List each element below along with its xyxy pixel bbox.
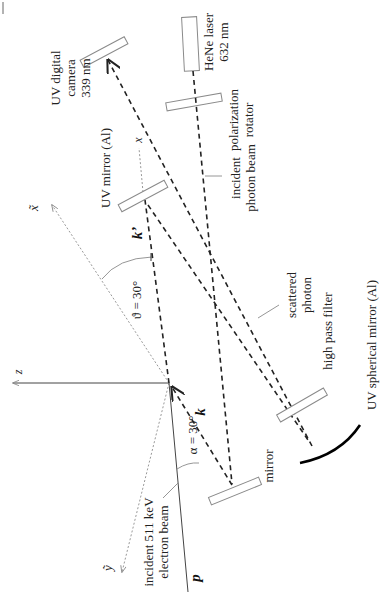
uv-camera-label-3: 339 nm: [78, 58, 93, 97]
polarization-rotator-label-1: polarization: [226, 88, 241, 151]
electron-beam-line: [169, 383, 188, 592]
scattered-photon-leader: [258, 305, 279, 318]
k-vector-label: k: [192, 408, 208, 416]
incident-photon-label-2: photon beam: [243, 144, 258, 212]
mirror-label: mirror: [261, 449, 276, 483]
scattered-photon-label-2: photon: [299, 276, 314, 313]
y-tilde-axis-label: ỹ: [100, 564, 115, 573]
scattered-photon-label-1: scattered: [284, 271, 299, 318]
hene-laser: [182, 17, 200, 72]
electron-beam-leader: [163, 483, 178, 498]
alpha-angle-arc: [177, 463, 199, 469]
x-tilde-axis: [52, 205, 169, 383]
scattered-photon-beam-lower: [148, 205, 308, 440]
high-pass-filter: [277, 388, 328, 422]
k-prime-beam: [145, 200, 169, 383]
z-axis-label: z: [11, 369, 25, 375]
electron-beam-label-1: incident 511 keV: [141, 497, 156, 587]
optical-setup-diagram: z x̃ ỹ x p incident 511 keV electron bea…: [0, 0, 385, 594]
uv-camera-label-2: camera: [63, 59, 78, 97]
uv-mirror-label: UV mirror (Al): [98, 128, 113, 208]
x-axis-label: x: [131, 137, 145, 144]
alpha-angle-label: α = 30°: [185, 416, 200, 455]
electron-beam-label-2: electron beam: [156, 505, 171, 578]
uv-mirror: [118, 180, 168, 211]
incident-photon-label-1: incident: [228, 157, 243, 199]
mirror: [208, 477, 261, 505]
theta-angle-arc: [102, 257, 152, 279]
k-vector-beam: [172, 387, 232, 485]
uv-spherical-mirror-label: UV spherical mirror (Al): [364, 280, 379, 410]
k-prime-label: k’: [129, 227, 145, 240]
uv-camera-label-1: UV digital: [48, 50, 63, 105]
x-axis: [139, 148, 143, 192]
x-tilde-axis-label: x̃: [26, 204, 41, 212]
high-pass-filter-label: high pass filter: [320, 292, 335, 370]
uv-spherical-mirror: [300, 425, 360, 463]
laser-label-2: 632 nm: [216, 22, 231, 61]
theta-angle-label: ϑ = 30°: [129, 281, 144, 319]
polarization-rotator-label-2: rotator: [241, 102, 256, 137]
polarization-rotator: [166, 93, 223, 111]
p-vector-label: p: [187, 574, 203, 584]
laser-label-1: HeNe laser: [201, 12, 216, 71]
